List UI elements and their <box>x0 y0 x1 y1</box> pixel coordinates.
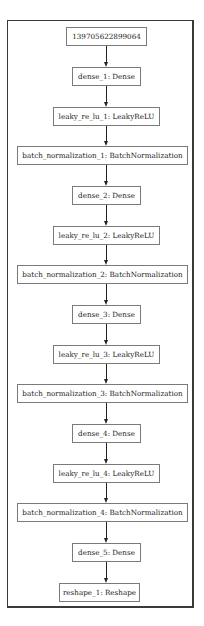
arrowhead-icon <box>104 141 108 146</box>
arrowhead-icon <box>104 379 108 384</box>
edge-line <box>106 126 107 141</box>
arrowhead-icon <box>104 62 108 67</box>
node-batch-normalization-1: batch_normalization_1: BatchNormalizatio… <box>17 146 188 165</box>
node-dense-2: dense_2: Dense <box>72 186 141 205</box>
edge-line <box>106 324 107 340</box>
edge-line <box>106 483 107 498</box>
edge-line <box>106 562 107 578</box>
edge-line <box>106 245 107 260</box>
arrowhead-icon <box>104 419 108 424</box>
node-dense-1: dense_1: Dense <box>72 67 141 86</box>
edge-line <box>106 522 107 538</box>
node-leaky-re-lu-1: leaky_re_lu_1: LeakyReLU <box>53 107 160 126</box>
node-dense-3: dense_3: Dense <box>72 305 141 324</box>
arrowhead-icon <box>104 300 108 305</box>
edge-line <box>106 403 107 419</box>
edge-line <box>106 86 107 102</box>
node-batch-normalization-3: batch_normalization_3: BatchNormalizatio… <box>17 384 188 403</box>
node-input: 139705622899064 <box>66 27 147 46</box>
arrowhead-icon <box>104 459 108 464</box>
node-leaky-re-lu-3: leaky_re_lu_3: LeakyReLU <box>53 345 160 364</box>
arrowhead-icon <box>104 340 108 345</box>
edge-line <box>106 284 107 300</box>
node-dense-4: dense_4: Dense <box>72 424 141 443</box>
arrowhead-icon <box>104 181 108 186</box>
edge-line <box>106 443 107 459</box>
node-dense-5: dense_5: Dense <box>72 543 141 562</box>
arrowhead-icon <box>104 221 108 226</box>
arrowhead-icon <box>104 498 108 503</box>
node-leaky-re-lu-2: leaky_re_lu_2: LeakyReLU <box>53 226 160 245</box>
node-leaky-re-lu-4: leaky_re_lu_4: LeakyReLU <box>53 464 160 483</box>
edge-line <box>106 46 107 62</box>
node-batch-normalization-2: batch_normalization_2: BatchNormalizatio… <box>17 265 188 284</box>
edge-line <box>106 165 107 181</box>
node-reshape-1: reshape_1: Reshape <box>59 583 140 602</box>
arrowhead-icon <box>104 578 108 583</box>
arrowhead-icon <box>104 538 108 543</box>
edge-line <box>106 205 107 221</box>
arrowhead-icon <box>104 260 108 265</box>
edge-line <box>106 364 107 379</box>
node-batch-normalization-4: batch_normalization_4: BatchNormalizatio… <box>17 503 188 522</box>
arrowhead-icon <box>104 102 108 107</box>
